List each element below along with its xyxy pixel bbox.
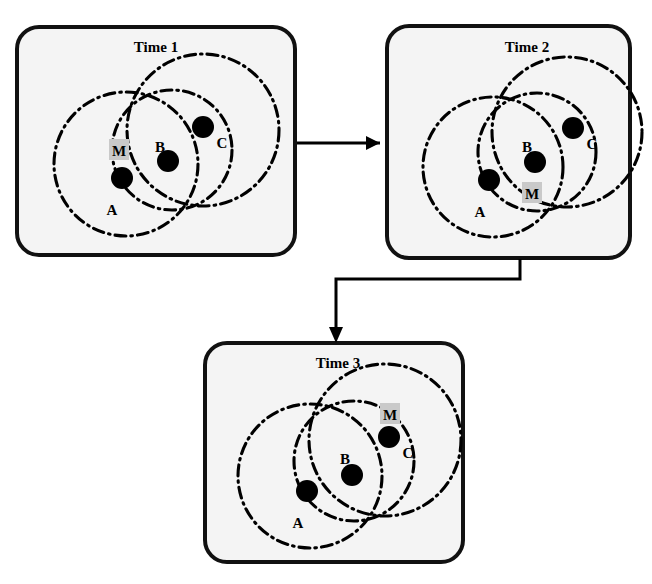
panel-time-1-title: Time 1: [134, 39, 178, 55]
node-a-dot: [296, 480, 318, 502]
figure-canvas: Time 1 A B C M Time 2 A B C: [0, 0, 652, 584]
node-a-label: A: [475, 204, 486, 220]
node-b-label: B: [522, 139, 532, 155]
arrow-shaft: [336, 259, 520, 335]
node-b-label: B: [155, 139, 165, 155]
node-c-dot: [378, 426, 400, 448]
panel-time-3: Time 3 A B C M: [205, 343, 463, 562]
node-a-label: A: [107, 202, 118, 218]
node-b-dot: [341, 464, 363, 486]
panel-time-2: Time 2 A B C M: [387, 26, 642, 258]
node-c-dot: [192, 116, 214, 138]
connector-time2-time3: [329, 259, 520, 343]
node-c-label: C: [217, 135, 228, 151]
marker-m-label: M: [112, 143, 126, 159]
node-c-dot: [562, 117, 584, 139]
node-c-label: C: [403, 445, 414, 461]
node-a-dot: [111, 167, 133, 189]
connector-time1-time2: [297, 136, 380, 150]
arrow-head-icon: [329, 327, 343, 343]
arrow-head-icon: [366, 136, 380, 150]
time-evolution-diagram: Time 1 A B C M Time 2 A B C: [0, 0, 652, 584]
node-c-label: C: [587, 136, 598, 152]
node-a-dot: [478, 169, 500, 191]
panel-time-1: Time 1 A B C M: [17, 27, 295, 255]
panel-time-2-title: Time 2: [505, 39, 549, 55]
marker-m-label: M: [525, 186, 539, 202]
node-b-label: B: [340, 451, 350, 467]
panel-time-3-title: Time 3: [316, 355, 360, 371]
marker-m-label: M: [383, 407, 397, 423]
node-a-label: A: [293, 515, 304, 531]
